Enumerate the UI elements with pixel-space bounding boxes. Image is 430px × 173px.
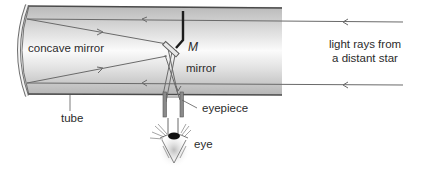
label-tube: tube [61, 111, 83, 125]
label-light-rays-line2: a distant star [310, 51, 420, 65]
label-light-rays-line1: light rays from [310, 37, 420, 51]
label-mirror: mirror [186, 61, 216, 75]
eye-icon [150, 124, 191, 168]
label-mirror-m: M [188, 40, 198, 54]
label-eye: eye [194, 137, 213, 151]
telescope-diagram [0, 0, 430, 173]
label-concave-mirror: concave mirror [28, 41, 104, 55]
eyepiece-leader-line [182, 100, 197, 108]
label-light-rays: light rays from a distant star [310, 37, 420, 65]
label-eyepiece: eyepiece [202, 101, 248, 115]
eyepiece [163, 92, 197, 117]
